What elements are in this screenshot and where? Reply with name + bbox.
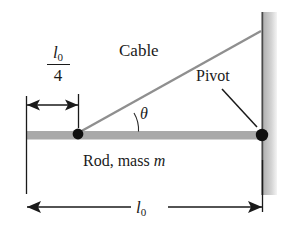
quarter-numerator: l0 bbox=[41, 44, 75, 63]
rod-bar bbox=[26, 131, 263, 140]
rod-label: Rod, mass m bbox=[83, 153, 165, 169]
cable-line bbox=[78, 31, 261, 133]
theta-label: θ bbox=[140, 106, 148, 122]
quarter-denominator: 4 bbox=[41, 66, 75, 86]
quarter-numerator-subscript: 0 bbox=[58, 51, 64, 63]
rod-mass-symbol: m bbox=[154, 152, 166, 169]
physics-diagram: l0 4 Cable θ Pivot Rod, mass m l0 bbox=[0, 0, 291, 244]
wall-shadow bbox=[264, 12, 277, 195]
angle-arc bbox=[134, 113, 139, 132]
length-subscript: 0 bbox=[141, 206, 147, 218]
cable-label: Cable bbox=[119, 42, 159, 59]
quarter-length-label: l0 4 bbox=[41, 44, 75, 86]
cable-attachment-dot bbox=[73, 129, 84, 140]
fraction-bar bbox=[47, 64, 70, 65]
full-length-label: l0 bbox=[136, 199, 146, 218]
pivot-dot bbox=[256, 129, 268, 141]
rod-label-text: Rod, mass bbox=[83, 152, 154, 169]
pivot-leader-line bbox=[222, 89, 257, 127]
pivot-label: Pivot bbox=[196, 68, 230, 84]
